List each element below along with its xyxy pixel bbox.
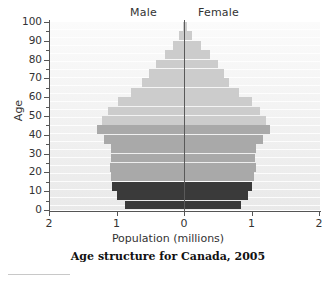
y-tick-label-80: 80 <box>18 53 42 65</box>
bar-male-70-74 <box>149 69 184 78</box>
y-tick-50 <box>44 116 50 117</box>
y-tick-60 <box>44 97 50 98</box>
y-tick-minor-15 <box>46 182 50 183</box>
y-tick-10 <box>44 191 50 192</box>
x-tick-label-4: 2 <box>316 217 323 230</box>
x-tick-4 <box>319 211 320 216</box>
bar-male-55-59 <box>118 97 184 106</box>
y-tick-70 <box>44 78 50 79</box>
y-tick-label-20: 20 <box>18 165 42 177</box>
y-tick-30 <box>44 154 50 155</box>
y-tick-100 <box>44 22 50 23</box>
bar-female-0-4 <box>184 201 241 210</box>
bar-male-0-4 <box>125 201 184 210</box>
y-tick-minor-25 <box>46 163 50 164</box>
x-tick-0 <box>49 211 50 216</box>
female-legend-label: Female <box>198 6 239 19</box>
x-tick-3 <box>252 211 253 216</box>
x-axis-title: Population (millions) <box>0 232 336 245</box>
y-tick-minor-95 <box>46 31 50 32</box>
bar-female-40-44 <box>184 125 270 134</box>
bar-female-15-19 <box>184 172 254 181</box>
x-tick-1 <box>117 211 118 216</box>
y-tick-20 <box>44 172 50 173</box>
bar-female-90-94 <box>184 31 192 40</box>
bar-female-10-14 <box>184 182 252 191</box>
y-tick-minor-65 <box>46 88 50 89</box>
population-pyramid-figure: Male Female 0102030405060708090100 21012… <box>0 0 336 282</box>
bar-male-50-54 <box>108 107 184 116</box>
y-tick-minor-85 <box>46 50 50 51</box>
bar-male-45-49 <box>102 116 184 125</box>
x-tick-label-1: 1 <box>113 217 120 230</box>
bar-male-85-89 <box>173 41 184 50</box>
y-tick-label-30: 30 <box>18 147 42 159</box>
footer-divider <box>8 274 70 275</box>
x-tick-2 <box>184 211 185 216</box>
bar-male-60-64 <box>131 88 184 97</box>
y-tick-minor-45 <box>46 125 50 126</box>
y-tick-minor-5 <box>46 201 50 202</box>
bar-male-80-84 <box>165 50 184 59</box>
bar-female-60-64 <box>184 88 239 97</box>
y-tick-minor-75 <box>46 69 50 70</box>
bar-male-25-29 <box>111 154 184 163</box>
x-tick-label-3: 1 <box>248 217 255 230</box>
bar-male-35-39 <box>104 135 184 144</box>
bar-female-20-24 <box>184 163 256 172</box>
center-zero-line <box>184 20 185 212</box>
y-tick-label-10: 10 <box>18 184 42 196</box>
y-tick-label-90: 90 <box>18 34 42 46</box>
bar-female-70-74 <box>184 69 224 78</box>
bar-female-85-89 <box>184 41 201 50</box>
bar-male-5-9 <box>117 191 185 200</box>
bar-male-75-79 <box>156 60 184 69</box>
bar-male-40-44 <box>97 125 184 134</box>
bar-male-10-14 <box>112 182 184 191</box>
x-tick-label-2: 0 <box>181 217 188 230</box>
y-tick-80 <box>44 60 50 61</box>
bar-male-15-19 <box>111 172 184 181</box>
bar-female-45-49 <box>184 116 266 125</box>
x-tick-label-0: 2 <box>46 217 53 230</box>
bar-female-35-39 <box>184 135 263 144</box>
bar-female-30-34 <box>184 144 256 153</box>
y-axis-title: Age <box>12 81 25 141</box>
bar-male-30-34 <box>111 144 184 153</box>
x-axis-line <box>49 211 321 212</box>
y-tick-minor-35 <box>46 144 50 145</box>
y-tick-label-100: 100 <box>18 15 42 27</box>
bar-female-25-29 <box>184 154 255 163</box>
chart-title: Age structure for Canada, 2005 <box>0 250 336 263</box>
y-tick-90 <box>44 41 50 42</box>
y-tick-label-0: 0 <box>18 203 42 215</box>
bar-female-5-9 <box>184 191 248 200</box>
plot-area <box>50 22 320 210</box>
bar-female-75-79 <box>184 60 218 69</box>
y-tick-minor-55 <box>46 107 50 108</box>
y-tick-40 <box>44 135 50 136</box>
bar-male-65-69 <box>142 78 184 87</box>
bar-male-20-24 <box>110 163 184 172</box>
male-legend-label: Male <box>130 6 157 19</box>
bar-female-65-69 <box>184 78 229 87</box>
bar-layer <box>50 22 320 210</box>
bar-female-55-59 <box>184 97 252 106</box>
bar-female-50-54 <box>184 107 260 116</box>
bar-female-80-84 <box>184 50 210 59</box>
